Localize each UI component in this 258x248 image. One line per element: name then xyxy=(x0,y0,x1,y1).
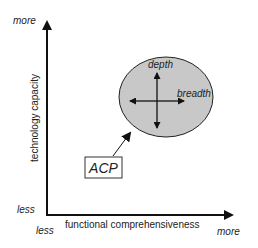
x-axis-label: functional comprehensiveness xyxy=(65,219,200,230)
x-axis-less-label: less xyxy=(36,225,54,236)
depth-label: depth xyxy=(148,59,173,70)
y-axis-label: technology capacity xyxy=(29,74,40,162)
y-axis-more-label: more xyxy=(13,15,36,26)
y-axis-less-label: less xyxy=(17,204,35,215)
x-axis-more-label: more xyxy=(217,226,240,237)
acp-pointer-arrow xyxy=(113,133,130,156)
acp-label: ACP xyxy=(88,160,118,176)
diagram-canvas: depth breadth ACP technology capacity mo… xyxy=(0,0,258,248)
breadth-label: breadth xyxy=(177,88,211,99)
